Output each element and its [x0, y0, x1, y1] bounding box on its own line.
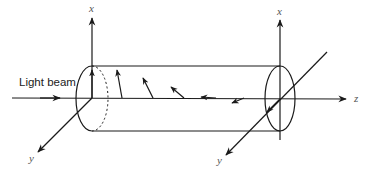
- left-y-axis-label: y: [29, 153, 34, 164]
- polarization-arrow-3: [143, 78, 153, 98]
- polarization-arrow-5: [201, 97, 216, 98]
- polarization-arrow-4: [171, 87, 184, 98]
- light-beam-line: [12, 98, 346, 99]
- polarization-arrow-2: [117, 70, 122, 98]
- polarization-rotation-diagram: [0, 0, 368, 178]
- left-y-axis: [38, 98, 92, 152]
- right-x-axis-label: x: [277, 6, 282, 17]
- right-y-axis-label: y: [217, 155, 222, 166]
- light-beam-label: Light beam: [19, 77, 76, 89]
- z-axis-label: z: [354, 93, 358, 104]
- right-y-axis-inner-arrow: [267, 99, 280, 112]
- left-x-axis-label: x: [89, 3, 94, 14]
